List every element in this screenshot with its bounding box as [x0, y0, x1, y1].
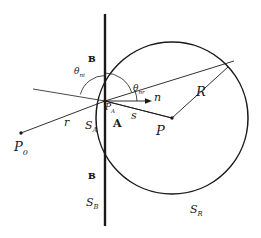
- label-theta-incident: θni: [74, 67, 85, 78]
- label-surface-SR: SR: [190, 204, 203, 218]
- label-point-PA: PA: [105, 103, 115, 114]
- normal-arrowhead-icon: [145, 98, 152, 104]
- label-medium-B-lower: ʙ: [88, 170, 96, 181]
- label-surface-SA: SA: [85, 120, 97, 134]
- point-marker-p0: [19, 131, 22, 134]
- label-distance-r: r: [64, 117, 69, 128]
- label-region-A: A: [113, 118, 122, 129]
- label-medium-B-upper: ʙ: [88, 53, 96, 64]
- label-radius-R: R: [196, 85, 206, 98]
- label-point-P0: P0: [14, 140, 28, 157]
- label-surface-SB: SB: [86, 197, 99, 211]
- label-point-P: P: [156, 124, 165, 137]
- point-marker-p: [170, 116, 173, 119]
- upper-left-ray: [33, 89, 105, 101]
- figure-canvas: θni θnr n R s r P P0 PA A SA SB SR ʙ ʙ: [0, 0, 261, 238]
- label-normal-vector: n: [154, 92, 161, 103]
- label-distance-s: s: [131, 110, 137, 121]
- label-theta-refracted: θnr: [133, 84, 145, 95]
